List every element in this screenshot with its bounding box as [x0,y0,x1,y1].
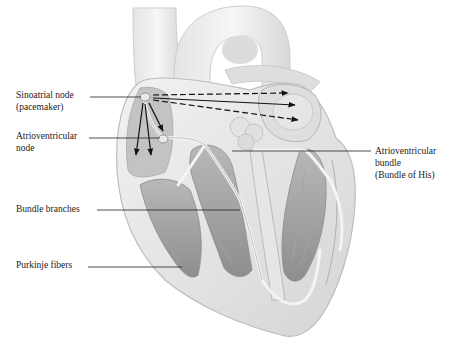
label-bundle-branches-line1: Bundle branches [16,203,80,215]
heart-body [117,78,356,336]
label-sa-node: Sinoatrial node (pacemaker) [16,89,74,113]
label-purkinje-fibers-line1: Purkinje fibers [16,259,72,271]
label-av-bundle-line2: bundle [375,157,436,169]
sa-node [140,93,150,101]
label-av-node: Atrioventricular node [16,130,77,154]
av-node [158,135,168,143]
label-av-node-line1: Atrioventricular [16,130,77,142]
label-av-bundle-line3: (Bundle of His) [375,169,436,181]
label-av-node-line2: node [16,142,77,154]
label-bundle-branches: Bundle branches [16,203,80,215]
label-sa-node-line1: Sinoatrial node [16,89,74,101]
label-sa-node-line2: (pacemaker) [16,101,74,113]
label-purkinje-fibers: Purkinje fibers [16,259,72,271]
label-av-bundle-line1: Atrioventricular [375,145,436,157]
label-av-bundle: Atrioventricular bundle (Bundle of His) [375,145,436,181]
